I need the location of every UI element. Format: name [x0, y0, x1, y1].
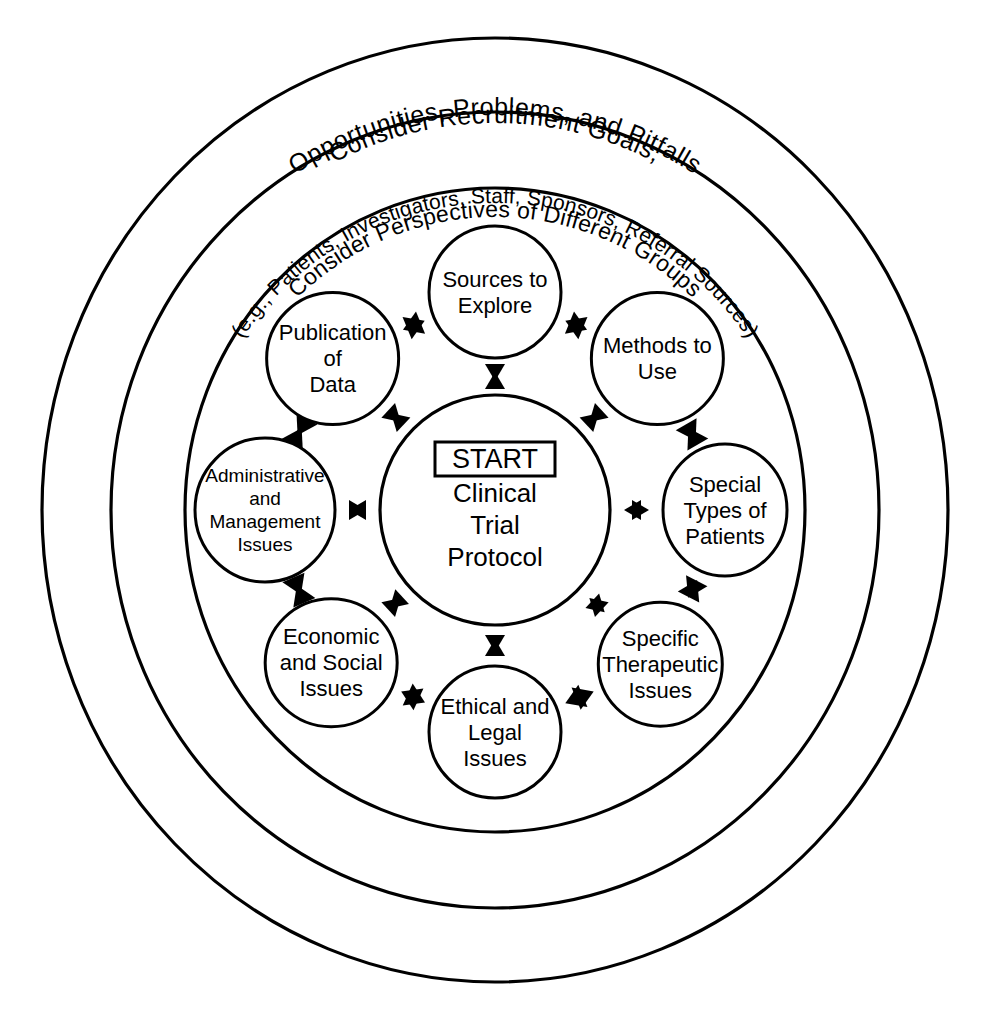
satellite-special-types-of-patients: SpecialTypes ofPatients	[663, 444, 787, 576]
start-badge-label: START	[452, 444, 538, 474]
center-line-2: Trial	[470, 510, 520, 540]
center-line-3: Protocol	[447, 542, 542, 572]
satellite-label-administrative-and-management-issues-line-4: Issues	[238, 534, 293, 555]
arrow-center-to-ethical-and-legal-issues	[485, 635, 505, 656]
satellite-label-economic-and-social-issues-line-3: Issues	[299, 676, 363, 701]
satellite-label-sources-to-explore-line-1: Sources to	[442, 267, 547, 292]
satellite-methods-to-use: Methods toUse	[591, 293, 723, 425]
satellite-label-publication-of-data-line-2: of	[323, 346, 342, 371]
satellite-economic-and-social-issues: Economicand SocialIssues	[265, 599, 397, 727]
satellite-specific-therapeutic-issues: SpecificTherapeuticIssues	[598, 602, 722, 726]
center-line-1: Clinical	[453, 478, 537, 508]
satellite-label-special-types-of-patients-line-1: Special	[689, 472, 761, 497]
satellite-label-administrative-and-management-issues-line-1: Administrative	[205, 465, 324, 486]
satellite-label-economic-and-social-issues-line-2: and Social	[280, 650, 383, 675]
satellite-label-ethical-and-legal-issues-line-2: Legal	[468, 720, 522, 745]
satellite-label-ethical-and-legal-issues-line-3: Issues	[463, 746, 527, 771]
satellite-label-methods-to-use-line-2: Use	[638, 359, 677, 384]
satellite-label-administrative-and-management-issues-line-3: Management	[210, 511, 322, 532]
satellite-circle-administrative-and-management-issues	[195, 438, 335, 582]
arrow-center-to-methods-to-use	[580, 403, 609, 432]
arrow-center-to-economic-and-social-issues	[381, 589, 409, 617]
arrow-publication-of-data-to-sources-to-explore	[403, 311, 426, 339]
satellite-label-special-types-of-patients-line-3: Patients	[685, 524, 765, 549]
clinical-trial-protocol-diagram: Consider Recruitment Goals, Opportunitie…	[0, 0, 990, 1010]
arrow-center-to-specific-therapeutic-issues	[585, 593, 608, 616]
satellite-label-special-types-of-patients-line-2: Types of	[683, 498, 767, 523]
satellite-label-specific-therapeutic-issues-line-2: Therapeutic	[602, 652, 718, 677]
satellite-sources-to-explore: Sources toExplore	[429, 226, 561, 358]
satellite-label-specific-therapeutic-issues-line-3: Issues	[628, 678, 692, 703]
satellite-label-ethical-and-legal-issues-line-1: Ethical and	[441, 694, 550, 719]
arrow-center-to-administrative-and-management-issues	[349, 500, 366, 520]
satellite-label-methods-to-use-line-1: Methods to	[603, 333, 712, 358]
satellite-label-economic-and-social-issues-line-1: Economic	[283, 624, 380, 649]
arrow-sources-to-explore-to-methods-to-use	[565, 311, 588, 339]
satellite-label-administrative-and-management-issues-line-2: and	[249, 488, 281, 509]
satellite-label-sources-to-explore-line-2: Explore	[458, 293, 533, 318]
arrow-center-to-sources-to-explore	[485, 364, 505, 389]
arrow-center-to-special-types-of-patients	[624, 500, 649, 520]
satellite-label-publication-of-data-line-3: Data	[309, 372, 356, 397]
satellite-administrative-and-management-issues: AdministrativeandManagementIssues	[195, 438, 335, 582]
center-node: START Clinical Trial Protocol	[380, 395, 610, 625]
satellite-label-publication-of-data-line-1: Publication	[279, 320, 387, 345]
arrow-methods-to-use-to-special-types-of-patients	[676, 418, 708, 450]
arrow-center-to-publication-of-data	[381, 403, 410, 432]
satellite-label-specific-therapeutic-issues-line-1: Specific	[622, 626, 699, 651]
arrow-specific-therapeutic-issues-to-ethical-and-legal-issues	[565, 685, 593, 710]
satellite-ethical-and-legal-issues: Ethical andLegalIssues	[429, 666, 561, 798]
arrow-special-types-of-patients-to-specific-therapeutic-issues	[678, 575, 708, 602]
satellite-publication-of-data: PublicationofData	[267, 293, 399, 425]
diagram-canvas: Consider Recruitment Goals, Opportunitie…	[0, 0, 990, 1010]
arrow-ethical-and-legal-issues-to-economic-and-social-issues	[401, 684, 425, 711]
